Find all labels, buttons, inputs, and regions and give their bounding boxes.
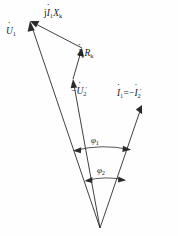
- label-j-i1-xk: jI1Xk: [44, 9, 63, 19]
- label-neg-u2-prime: −U2′: [71, 87, 88, 97]
- label-u1-symbol: U: [6, 27, 13, 37]
- label-i1-subscript: 1: [120, 92, 123, 99]
- arc-phi1: [73, 146, 131, 154]
- label-u2-prime: ′: [86, 85, 88, 92]
- vector-i1-eq-neg-i2-prime: [100, 105, 142, 228]
- label-u1-subscript: 1: [13, 30, 16, 37]
- label-u1: U1: [6, 27, 16, 37]
- label-phi1: φ1: [91, 136, 99, 145]
- label-phi2: φ2: [97, 166, 105, 175]
- label-i1-rk: I1Rk: [78, 49, 94, 59]
- phasor-diagram: jI1Xk U1 I1Rk −U2′ I1=−I2′ φ1 φ2: [0, 0, 178, 236]
- label-i1rk-resistance-subscript: k: [90, 52, 93, 59]
- label-current-subscript: 1: [50, 12, 53, 19]
- label-phi2-subscript: 2: [102, 169, 105, 176]
- label-reactance-subscript: k: [59, 12, 62, 19]
- label-i1rk-current-subscript: 1: [81, 52, 84, 59]
- phasor-diagram-canvas: [0, 0, 178, 236]
- label-phi1-subscript: 1: [96, 139, 99, 146]
- label-i1-eq-neg-i2-prime: I1=−I2′: [117, 89, 143, 99]
